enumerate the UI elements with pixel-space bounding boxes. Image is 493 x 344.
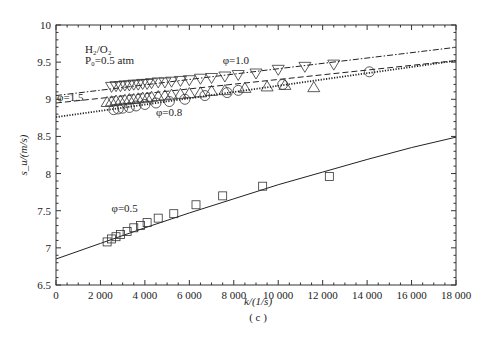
triangle-up-marker (261, 81, 273, 91)
triangle-down-marker (194, 74, 206, 84)
annotation: P₀=0.5 atm (85, 54, 135, 66)
x-tick-label: 18 000 (441, 289, 472, 301)
x-tick-label: 0 (53, 289, 59, 301)
triangle-up-marker (194, 87, 206, 97)
y-tick-label: 8 (46, 168, 52, 180)
annotation: φ=0.8 (156, 106, 183, 118)
y-axis-label: s_u/(m/s) (17, 134, 30, 175)
plot-area (56, 47, 456, 259)
square-marker (325, 173, 333, 181)
triangle-down-marker (183, 76, 195, 86)
x-tick-label: 4 000 (133, 289, 158, 301)
x-tick-label: 14 000 (352, 289, 383, 301)
triangle-up-marker (308, 82, 320, 92)
circle-marker (364, 67, 374, 77)
annotations: H₂/O₂P₀=0.5 atmφ=1.0φ=1.5φ=0.8φ=0.5 (57, 43, 249, 214)
annotation: φ=0.5 (112, 202, 139, 214)
chart: 02 0004 0006 0008 00010 00012 00014 0001… (0, 0, 493, 344)
triangle-down-marker (250, 69, 262, 79)
y-tick-label: 7.5 (37, 205, 51, 217)
square-marker (154, 214, 162, 222)
square-marker (219, 192, 227, 200)
x-tick-label: 2 000 (88, 289, 113, 301)
square-marker (170, 210, 178, 218)
triangle-down-marker (299, 62, 311, 72)
triangle-down-marker (219, 72, 231, 82)
x-tick-label: 16 000 (396, 289, 427, 301)
panel-label: ( c ) (249, 311, 267, 324)
circle-marker (233, 85, 243, 95)
y-tick-label: 9.5 (37, 56, 51, 68)
x-tick-label: 12 000 (308, 289, 339, 301)
y-tick-label: 7 (46, 242, 52, 254)
x-tick-label: 6 000 (177, 289, 202, 301)
triangle-down-marker (272, 65, 284, 75)
x-axis-label: k/(1/s) (244, 295, 272, 308)
triangle-down-marker (206, 73, 218, 83)
y-tick-label: 10 (40, 19, 52, 31)
annotation: φ=1.5 (57, 91, 84, 103)
x-tick-label: 8 000 (221, 289, 246, 301)
annotation: φ=1.0 (223, 54, 250, 66)
y-tick-label: 8.5 (37, 130, 51, 142)
square-marker (192, 201, 200, 209)
y-tick-label: 6.5 (37, 279, 51, 291)
y-tick-label: 9 (46, 93, 52, 105)
series-square (56, 137, 456, 259)
triangle-down-marker (232, 71, 244, 81)
